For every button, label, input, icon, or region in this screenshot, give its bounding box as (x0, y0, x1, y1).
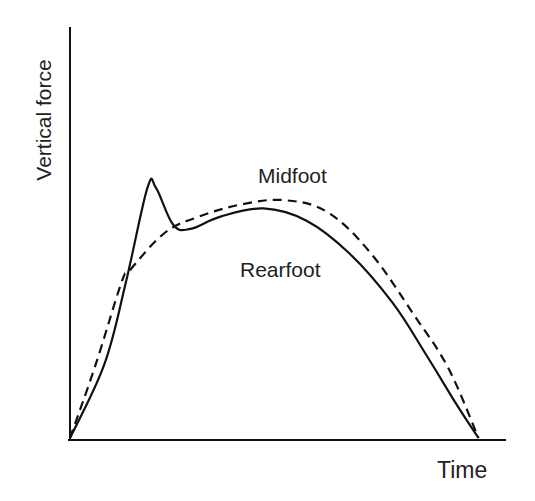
y-axis-label: Vertical force (32, 55, 56, 185)
chart-canvas (0, 0, 535, 501)
rearfoot-label: Rearfoot (240, 258, 321, 282)
midfoot-label: Midfoot (258, 164, 327, 188)
rearfoot-curve (70, 179, 479, 438)
x-axis-label: Time (437, 457, 487, 484)
midfoot-curve (70, 200, 479, 438)
